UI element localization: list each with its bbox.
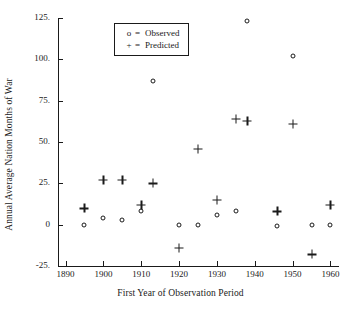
x-tick-mark [255, 261, 256, 266]
y-tick-mark [59, 225, 63, 226]
data-point-observed [328, 222, 333, 227]
data-point-predicted [212, 195, 221, 204]
data-point-predicted [243, 116, 252, 125]
x-tick-mark [179, 261, 180, 266]
data-point-observed [150, 78, 155, 83]
y-tick-mark [59, 142, 63, 143]
legend-entry-observed: o = Observed [123, 27, 180, 39]
legend-separator: = [135, 27, 140, 39]
legend-label-predicted: Predicted [145, 39, 179, 51]
data-point-predicted [148, 179, 157, 188]
data-point-observed [120, 217, 125, 222]
y-tick-mark [59, 18, 63, 19]
y-tick-label: 100. [4, 54, 50, 63]
y-tick-label: 25. [4, 178, 50, 187]
y-tick-label: -25. [4, 261, 50, 270]
data-point-predicted [118, 176, 127, 185]
plot-area: -25.025.50.75.100.125. 18901900191019201… [58, 18, 338, 266]
data-point-observed [290, 54, 295, 59]
data-point-observed [139, 209, 144, 214]
x-axis-title: First Year of Observation Period [0, 288, 361, 298]
data-point-predicted [175, 243, 184, 252]
data-point-observed [245, 19, 250, 24]
data-point-observed [214, 212, 219, 217]
data-point-predicted [273, 207, 282, 216]
scatter-plot-figure: Annual Average Nation Months of War Firs… [0, 0, 361, 309]
data-point-observed [196, 222, 201, 227]
data-point-predicted [307, 250, 316, 259]
data-point-predicted [99, 176, 108, 185]
x-tick-mark [66, 261, 67, 266]
y-tick-label: 75. [4, 96, 50, 105]
legend-label-observed: Observed [145, 27, 180, 39]
data-point-predicted [194, 144, 203, 153]
legend-marker-circle-icon: o [123, 27, 135, 39]
y-tick-mark [59, 266, 63, 267]
data-point-observed [101, 216, 106, 221]
data-point-observed [275, 224, 280, 229]
data-point-observed [233, 209, 238, 214]
legend-marker-plus-icon: + [123, 39, 135, 51]
data-point-observed [309, 222, 314, 227]
y-tick-mark [59, 59, 63, 60]
x-tick-label: 1960 [308, 270, 352, 279]
y-tick-label: 0 [4, 220, 50, 229]
x-tick-mark [330, 261, 331, 266]
data-point-observed [82, 222, 87, 227]
data-point-predicted [80, 204, 89, 213]
data-point-predicted [231, 114, 240, 123]
data-point-predicted [137, 200, 146, 209]
y-tick-mark [59, 101, 63, 102]
y-tick-label: 125. [4, 13, 50, 22]
x-axis-line [58, 266, 339, 267]
data-point-observed [177, 222, 182, 227]
x-tick-mark [103, 261, 104, 266]
data-point-predicted [288, 119, 297, 128]
x-tick-mark [141, 261, 142, 266]
y-tick-mark [59, 183, 63, 184]
y-tick-label: 50. [4, 137, 50, 146]
x-tick-mark [293, 261, 294, 266]
legend-separator: = [135, 39, 140, 51]
x-tick-mark [217, 261, 218, 266]
data-point-predicted [326, 200, 335, 209]
legend-entry-predicted: + = Predicted [123, 39, 180, 51]
legend: o = Observed + = Predicted [114, 23, 189, 56]
